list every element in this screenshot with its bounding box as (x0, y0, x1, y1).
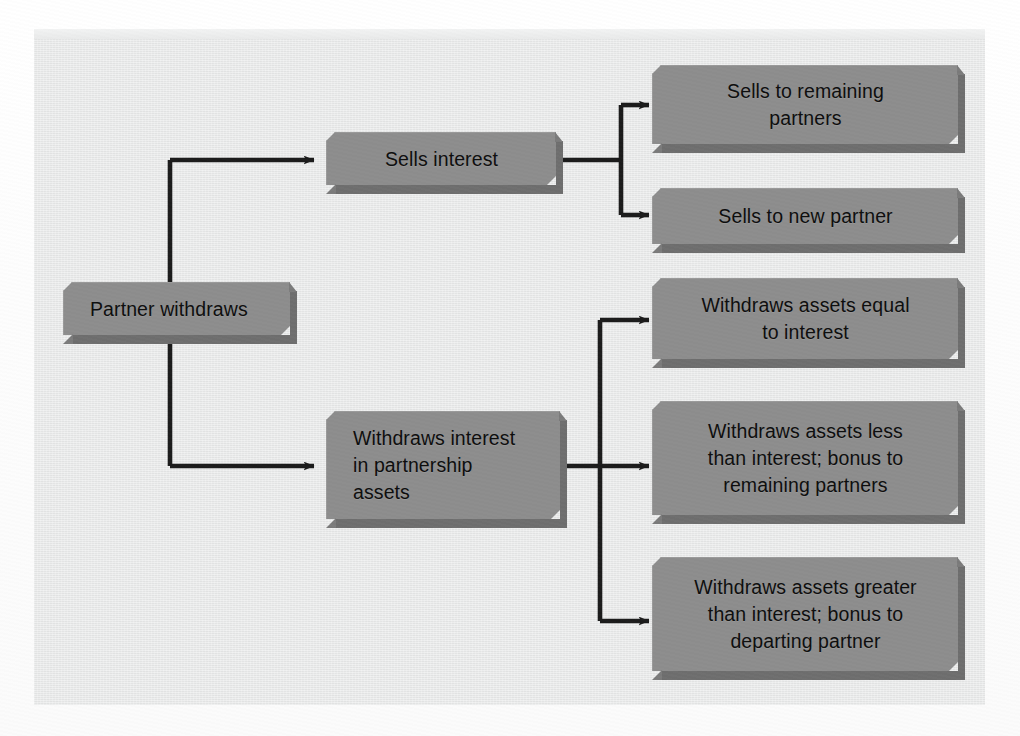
node-bevel-bottom-left (652, 670, 662, 680)
node-sells-to-new-partner[interactable]: Sells to new partner (652, 188, 965, 253)
node-sells-to-remaining-partners[interactable]: Sells to remaining partners (652, 65, 965, 153)
node-bottom-face (72, 335, 297, 344)
node-side-face (560, 420, 567, 519)
node-bottom-face (335, 185, 563, 194)
node-side-face (958, 566, 965, 671)
node-bevel-top-right (957, 557, 965, 567)
node-bevel-bottom-left (652, 243, 662, 253)
node-bevel-bottom-left (326, 184, 336, 194)
node-bottom-face (661, 359, 965, 368)
node-withdraws-assets-less[interactable]: Withdraws assets less than interest; bon… (652, 401, 965, 524)
node-face: Partner withdraws (63, 282, 290, 335)
node-bevel-top-right (957, 188, 965, 198)
node-bevel-bottom-left (652, 514, 662, 524)
node-label: Partner withdraws (64, 296, 248, 323)
node-bottom-face (661, 671, 965, 680)
node-label: Sells to new partner (718, 203, 892, 230)
node-bevel-top-right (957, 278, 965, 288)
node-bevel-bottom-left (63, 334, 73, 344)
node-bevel-bottom-left (326, 518, 336, 528)
node-withdraws-assets-equal[interactable]: Withdraws assets equal to interest (652, 278, 965, 368)
node-side-face (290, 291, 297, 335)
node-label: Withdraws assets less than interest; bon… (708, 418, 903, 499)
node-partner-withdraws[interactable]: Partner withdraws (63, 282, 297, 344)
panel-top-highlight (34, 29, 985, 39)
node-face: Withdraws interest in partnership assets (326, 411, 560, 519)
node-side-face (556, 141, 563, 185)
node-bottom-face (661, 244, 965, 253)
node-bevel-bottom-left (652, 143, 662, 153)
node-face: Sells to new partner (652, 188, 958, 244)
node-label: Sells to remaining partners (727, 78, 884, 132)
node-bevel-top-right (555, 132, 563, 142)
node-side-face (958, 197, 965, 244)
node-bevel-top-right (957, 401, 965, 411)
node-face: Withdraws assets greater than interest; … (652, 557, 958, 671)
node-bottom-face (335, 519, 567, 528)
node-side-face (958, 410, 965, 515)
node-label: Withdraws assets equal to interest (701, 292, 909, 346)
node-bevel-top-right (957, 65, 965, 75)
node-bottom-face (661, 144, 965, 153)
node-side-face (958, 74, 965, 144)
node-sells-interest[interactable]: Sells interest (326, 132, 563, 194)
node-side-face (958, 287, 965, 359)
node-withdraws-interest-in-partnership-assets[interactable]: Withdraws interest in partnership assets (326, 411, 567, 528)
node-face: Sells to remaining partners (652, 65, 958, 144)
node-bevel-top-right (289, 282, 297, 292)
node-face: Sells interest (326, 132, 556, 185)
node-bevel-top-right (559, 411, 567, 421)
node-face: Withdraws assets equal to interest (652, 278, 958, 359)
node-bevel-bottom-left (652, 358, 662, 368)
node-withdraws-assets-greater[interactable]: Withdraws assets greater than interest; … (652, 557, 965, 680)
node-bottom-face (661, 515, 965, 524)
node-face: Withdraws assets less than interest; bon… (652, 401, 958, 515)
node-label: Withdraws assets greater than interest; … (694, 574, 916, 655)
node-label: Sells interest (385, 146, 498, 173)
node-label: Withdraws interest in partnership assets (327, 425, 515, 506)
flowchart-panel: Partner withdraws Sells interest Sells t… (34, 29, 985, 705)
